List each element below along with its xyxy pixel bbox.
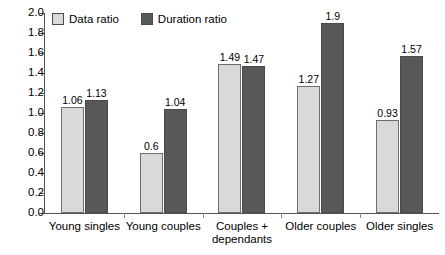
bar-value-label: 1.47 (244, 54, 264, 65)
bar-chart: Data ratio Duration ratio 0.00.20.40.60.… (0, 0, 445, 255)
bar-value-label: 1.06 (62, 95, 82, 106)
x-category-label: Young couples (124, 220, 203, 233)
y-tick-label: 0.2 (14, 187, 44, 199)
bar-data-ratio[interactable]: 1.27 (297, 86, 320, 213)
legend-label-data-ratio: Data ratio (69, 13, 119, 25)
y-tick-label: 1.4 (14, 67, 44, 79)
bar-duration-ratio[interactable]: 1.9 (321, 23, 344, 213)
x-category-separator (124, 213, 125, 218)
x-category-label: Older singles (360, 220, 439, 233)
y-tick-label: 2.0 (14, 7, 44, 19)
x-category-separator (203, 213, 204, 218)
bar-group: 1.491.47 (203, 13, 282, 213)
bar-value-label: 1.57 (401, 44, 421, 55)
y-tick-label: 1.6 (14, 47, 44, 59)
bar-data-ratio[interactable]: 1.06 (61, 107, 84, 213)
y-tick-label: 1.8 (14, 27, 44, 39)
bar-value-label: 1.49 (220, 52, 240, 63)
bar-duration-ratio[interactable]: 1.04 (164, 109, 187, 213)
bar-group: 0.61.04 (124, 13, 203, 213)
legend-label-duration-ratio: Duration ratio (158, 13, 227, 25)
bar-duration-ratio[interactable]: 1.57 (400, 56, 423, 213)
legend-item-duration-ratio: Duration ratio (141, 13, 227, 25)
x-axis-line (44, 213, 439, 214)
legend-swatch-icon-data-ratio (52, 13, 64, 25)
bar-group: 0.931.57 (360, 13, 439, 213)
bar-value-label: 1.9 (325, 11, 340, 22)
bar-value-label: 1.13 (86, 88, 106, 99)
bar-value-label: 1.04 (165, 97, 185, 108)
y-tick-label: 0.6 (14, 147, 44, 159)
bar-data-ratio[interactable]: 0.6 (140, 153, 163, 213)
x-category-label: Older couples (281, 220, 360, 233)
bar-data-ratio[interactable]: 1.49 (218, 64, 241, 213)
bar-group: 1.271.9 (281, 13, 360, 213)
legend-item-data-ratio: Data ratio (52, 13, 119, 25)
bar-duration-ratio[interactable]: 1.13 (85, 100, 108, 213)
y-tick-label: 1.2 (14, 87, 44, 99)
bar-data-ratio[interactable]: 0.93 (376, 120, 399, 213)
x-category-label: Young singles (45, 220, 124, 233)
x-category-separator (360, 213, 361, 218)
y-tick-label: 0.4 (14, 167, 44, 179)
plot-area: 1.061.130.61.041.491.471.271.90.931.57 (45, 13, 439, 213)
x-category-label: Couples + dependants (203, 220, 282, 246)
y-tick-label: 0.8 (14, 127, 44, 139)
chart-legend: Data ratio Duration ratio (52, 13, 227, 25)
bar-value-label: 0.93 (377, 108, 397, 119)
x-category-separator (281, 213, 282, 218)
bar-duration-ratio[interactable]: 1.47 (242, 66, 265, 213)
y-tick-label: 1.0 (14, 107, 44, 119)
y-tick-label: 0.0 (14, 207, 44, 219)
bar-value-label: 0.6 (144, 141, 159, 152)
bar-value-label: 1.27 (299, 74, 319, 85)
legend-swatch-icon-duration-ratio (141, 13, 153, 25)
bar-group: 1.061.13 (45, 13, 124, 213)
